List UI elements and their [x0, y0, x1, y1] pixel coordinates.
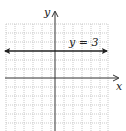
y-axis-label: y — [44, 6, 50, 19]
equation-label: y = 3 — [69, 36, 98, 49]
x-axis-label: x — [116, 80, 122, 93]
x-axis — [5, 75, 119, 81]
coordinate-plane — [0, 0, 126, 131]
y-axis — [52, 11, 58, 131]
